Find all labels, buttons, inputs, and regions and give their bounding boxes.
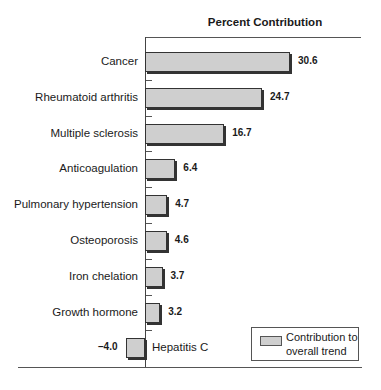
category-label: Anticoagulation: [0, 158, 138, 178]
category-label: Pulmonary hypertension: [0, 194, 138, 214]
bar: [145, 195, 167, 215]
bar: [145, 52, 290, 72]
axis-tick: [146, 223, 152, 224]
legend-line-1: Contribution to: [286, 330, 358, 344]
category-label: Osteoporosis: [0, 230, 138, 250]
value-label: 30.6: [298, 51, 317, 71]
axis-tick: [146, 187, 152, 188]
legend-line-2: overall trend: [286, 344, 358, 358]
category-label: Cancer: [0, 51, 138, 71]
bar: [145, 88, 262, 108]
value-label: 24.7: [270, 87, 289, 107]
category-label: Rheumatoid arthritis: [0, 87, 138, 107]
top-rule: [145, 37, 361, 38]
category-label: Multiple sclerosis: [0, 123, 138, 143]
bar: [126, 338, 145, 358]
value-label: 4.7: [175, 194, 189, 214]
value-label: 3.2: [168, 302, 182, 322]
legend: Contribution to overall trend: [251, 327, 359, 361]
bar: [145, 231, 167, 251]
category-label: Growth hormone: [0, 302, 138, 322]
bar: [145, 124, 224, 144]
axis-tick: [146, 80, 152, 81]
chart-title: Percent Contribution: [190, 16, 340, 28]
value-label: –4.0: [98, 337, 117, 357]
axis-tick: [146, 259, 152, 260]
axis-tick: [146, 330, 152, 331]
axis-tick: [146, 116, 152, 117]
bar: [145, 303, 160, 323]
bottom-rule: [18, 367, 362, 368]
bar: [145, 267, 163, 287]
value-label: 6.4: [183, 158, 197, 178]
axis-tick: [146, 295, 152, 296]
axis-tick: [146, 151, 152, 152]
value-label: 16.7: [232, 123, 251, 143]
value-label: 3.7: [171, 266, 185, 286]
bar: [145, 159, 175, 179]
legend-swatch: [260, 336, 282, 346]
category-label: Iron chelation: [0, 266, 138, 286]
value-label: 4.6: [175, 230, 189, 250]
legend-label: Contribution to overall trend: [286, 330, 358, 358]
